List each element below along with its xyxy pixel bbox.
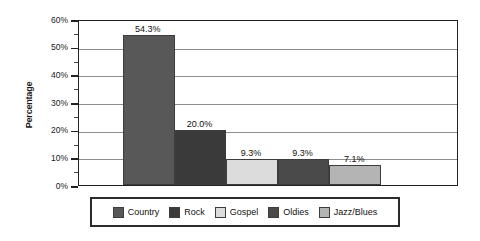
chart-legend: CountryRockGospelOldiesJazz/Blues xyxy=(90,197,400,227)
bar-chart-figure: Percentage 60%50%40%30%20%10%0% 54.3%20.… xyxy=(0,0,480,241)
bar-value-label: 9.3% xyxy=(277,148,329,158)
y-axis-major-tick xyxy=(71,20,78,22)
bar-jazz-blues xyxy=(329,165,381,185)
y-axis-major-tick xyxy=(71,75,78,77)
legend-swatch-icon xyxy=(215,207,226,218)
legend-label: Oldies xyxy=(283,207,309,218)
plot-inner xyxy=(79,21,457,185)
legend-swatch-icon xyxy=(169,207,180,218)
y-axis-tick-label: 0% xyxy=(22,182,68,191)
bar-gospel xyxy=(226,159,278,185)
y-axis-major-tick xyxy=(71,48,78,50)
legend-swatch-icon xyxy=(113,207,124,218)
legend-item-gospel[interactable]: Gospel xyxy=(215,207,259,218)
y-axis-tick-label: 30% xyxy=(22,99,68,108)
legend-label: Rock xyxy=(184,207,205,218)
bar-country xyxy=(123,35,175,185)
bar-value-label: 9.3% xyxy=(225,148,277,158)
legend-label: Jazz/Blues xyxy=(334,207,378,218)
legend-swatch-icon xyxy=(268,207,279,218)
bar-value-label: 20.0% xyxy=(174,119,226,129)
legend-item-rock[interactable]: Rock xyxy=(169,207,205,218)
y-axis-tick-label: 20% xyxy=(22,126,68,135)
y-axis-tick-label: 50% xyxy=(22,43,68,52)
legend-label: Country xyxy=(128,207,160,218)
bar-oldies xyxy=(278,159,330,185)
y-axis-tick-label: 10% xyxy=(22,154,68,163)
bar-value-label: 54.3% xyxy=(122,24,174,34)
plot-area xyxy=(78,20,458,186)
legend-item-oldies[interactable]: Oldies xyxy=(268,207,309,218)
bar-value-label: 7.1% xyxy=(328,154,380,164)
y-axis-major-tick xyxy=(71,131,78,133)
legend-item-country[interactable]: Country xyxy=(113,207,160,218)
y-axis-tick-label: 40% xyxy=(22,71,68,80)
legend-swatch-icon xyxy=(319,207,330,218)
legend-label: Gospel xyxy=(230,207,259,218)
y-axis-tick-label: 60% xyxy=(22,16,68,25)
y-axis-major-tick xyxy=(71,103,78,105)
legend-item-jazz-blues[interactable]: Jazz/Blues xyxy=(319,207,378,218)
y-axis-major-tick xyxy=(71,158,78,160)
bar-rock xyxy=(175,130,227,185)
y-axis-major-tick xyxy=(71,186,78,188)
